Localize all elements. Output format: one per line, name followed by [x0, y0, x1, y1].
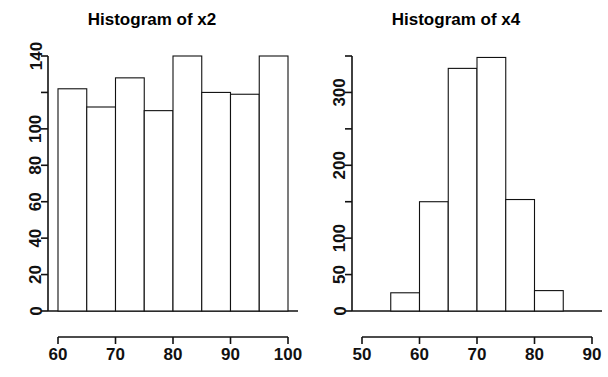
y-tick-label-x2: 40 [27, 229, 46, 248]
histogram-bar-x4 [477, 57, 506, 311]
histogram-bar-x4 [506, 200, 535, 311]
histogram-bar-x2 [231, 94, 260, 311]
histogram-bar-x4 [535, 291, 564, 311]
y-tick-label-x4: 200 [331, 151, 350, 179]
x-tick-label-x4: 80 [525, 345, 544, 364]
x-tick-label-x2: 80 [164, 345, 183, 364]
histogram-bar-x4 [420, 202, 449, 311]
histogram-bar-x2 [144, 111, 173, 311]
y-tick-label-x4: 50 [331, 265, 350, 284]
x-tick-label-x2: 60 [49, 345, 68, 364]
plot-area-left: 02040608010014060708090100 [0, 0, 304, 377]
plot-area-right: 0501002003005060708090 [304, 0, 608, 377]
histogram-bar-x2 [202, 92, 231, 311]
histogram-bar-x4 [391, 293, 420, 311]
histogram-bar-x2 [58, 89, 87, 311]
y-tick-label-x4: 0 [331, 306, 350, 315]
histogram-bar-x2 [87, 107, 116, 311]
x-tick-label-x2: 100 [274, 345, 302, 364]
x-tick-label-x4: 60 [410, 345, 429, 364]
y-tick-label-x2: 80 [27, 156, 46, 175]
y-tick-label-x2: 20 [27, 265, 46, 284]
x-tick-label-x2: 90 [221, 345, 240, 364]
histogram-bar-x4 [448, 68, 477, 311]
y-tick-label-x2: 60 [27, 192, 46, 211]
histogram-x2-svg: 02040608010014060708090100 [0, 0, 304, 377]
chart-panel-right: Histogram of x4 0501002003005060708090 [304, 0, 608, 377]
histogram-bar-x2 [173, 56, 202, 311]
y-tick-label-x2: 100 [27, 115, 46, 143]
x-tick-label-x4: 70 [468, 345, 487, 364]
histogram-bar-x2 [116, 78, 145, 311]
chart-panel-left: Histogram of x2 020406080100140607080901… [0, 0, 304, 377]
x-tick-label-x2: 70 [106, 345, 125, 364]
y-tick-label-x2: 140 [27, 42, 46, 70]
figure-canvas: Histogram of x2 020406080100140607080901… [0, 0, 608, 377]
histogram-x4-svg: 0501002003005060708090 [304, 0, 608, 377]
x-tick-label-x4: 50 [353, 345, 372, 364]
y-tick-label-x2: 0 [27, 306, 46, 315]
histogram-bar-x2 [259, 56, 288, 311]
y-tick-label-x4: 300 [331, 78, 350, 106]
x-tick-label-x4: 90 [583, 345, 602, 364]
y-tick-label-x4: 100 [331, 224, 350, 252]
